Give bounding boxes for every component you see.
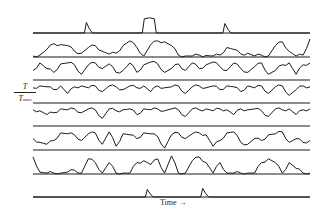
trace-5 (33, 108, 310, 126)
trace-peaks (33, 188, 310, 197)
trace-line (33, 39, 310, 57)
trace-4 (33, 85, 310, 103)
trace-8 (33, 188, 310, 197)
y-axis-label: T Tmax (14, 82, 36, 104)
trace-peaks (33, 18, 310, 33)
y-label-denominator: Tmax (14, 93, 36, 104)
stacked-trace-chart (0, 0, 328, 213)
trace-line (33, 108, 310, 119)
trace-1 (33, 18, 310, 33)
x-axis-label: Time → (160, 198, 187, 207)
trace-line (33, 85, 310, 96)
trace-2 (33, 39, 310, 57)
trace-line (33, 61, 310, 74)
y-label-subscript: max (23, 97, 32, 102)
trace-3 (33, 61, 310, 80)
trace-line (33, 131, 310, 148)
trace-7 (33, 156, 310, 174)
y-label-numerator: T (14, 82, 36, 93)
trace-6 (33, 131, 310, 150)
trace-line (33, 156, 310, 174)
